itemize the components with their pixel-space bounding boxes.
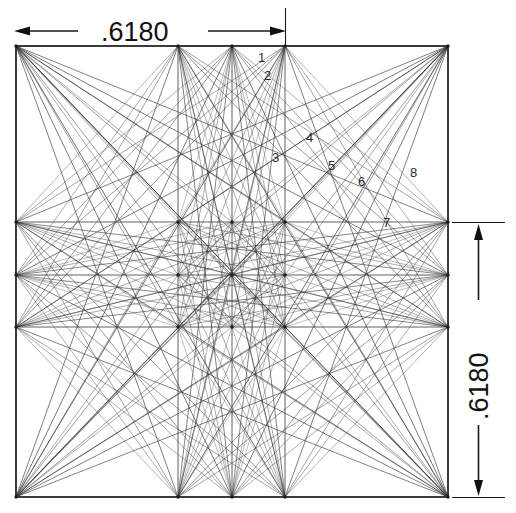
golden-ratio-figure: .6180 .6180 12345678 xyxy=(0,0,516,513)
lattice-node xyxy=(14,273,17,276)
lattice-node xyxy=(230,325,233,328)
lattice-node xyxy=(446,495,449,498)
arrow-right-icon xyxy=(270,27,286,36)
lattice-node xyxy=(446,220,449,223)
lattice-node xyxy=(176,495,179,498)
lattice-node xyxy=(283,273,286,276)
lattice-node xyxy=(446,325,449,328)
lattice-node xyxy=(176,44,179,47)
point-label-6: 6 xyxy=(358,174,365,189)
lattice-node xyxy=(14,220,17,223)
lattice-node xyxy=(230,273,233,276)
lattice-node xyxy=(14,325,17,328)
lattice-node xyxy=(176,325,179,328)
lattice-node xyxy=(283,220,286,223)
top-dimension-label: .6180 xyxy=(101,17,169,47)
right-dimension-label: .6180 xyxy=(464,352,494,420)
arrow-down-icon xyxy=(474,480,483,496)
point-label-1: 1 xyxy=(258,50,265,65)
right-dimension-annotation: .6180 xyxy=(452,223,505,498)
point-label-2: 2 xyxy=(264,68,271,83)
geometry-canvas: .6180 .6180 12345678 xyxy=(0,0,516,513)
point-label-7: 7 xyxy=(383,215,390,230)
lattice-node xyxy=(230,495,233,498)
point-label-8: 8 xyxy=(410,165,417,180)
point-label-3: 3 xyxy=(272,150,279,165)
arrow-left-icon xyxy=(14,27,30,36)
lattice-node xyxy=(230,44,233,47)
lattice-node xyxy=(176,220,179,223)
arrow-up-icon xyxy=(474,224,483,240)
lattice-node xyxy=(14,495,17,498)
top-dimension-annotation: .6180 xyxy=(14,8,286,47)
point-label-4: 4 xyxy=(306,130,313,145)
lattice-node xyxy=(446,44,449,47)
lattice-node xyxy=(176,273,179,276)
lattice-node xyxy=(230,220,233,223)
lattice-node xyxy=(283,325,286,328)
lattice-node xyxy=(446,273,449,276)
point-label-5: 5 xyxy=(328,158,335,173)
lattice-node xyxy=(14,44,17,47)
lattice-node xyxy=(283,495,286,498)
